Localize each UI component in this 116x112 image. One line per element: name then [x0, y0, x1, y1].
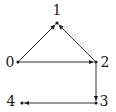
- node-label-0: 0: [6, 54, 15, 70]
- node-3: [94, 101, 97, 104]
- node-label-1: 1: [53, 2, 62, 18]
- node-label-2: 2: [101, 54, 110, 70]
- edge-0-to-1: [19, 25, 55, 61]
- node-label-3: 3: [100, 93, 109, 109]
- edge-2-to-1: [59, 25, 95, 61]
- node-label-4: 4: [7, 93, 16, 109]
- edges-group: [19, 25, 96, 103]
- node-4: [20, 101, 23, 104]
- node-2: [94, 60, 97, 63]
- directed-graph: 01234: [0, 0, 116, 112]
- nodes-group: [16, 21, 97, 104]
- node-1: [55, 21, 58, 24]
- node-0: [16, 60, 19, 63]
- labels-group: 01234: [6, 2, 110, 109]
